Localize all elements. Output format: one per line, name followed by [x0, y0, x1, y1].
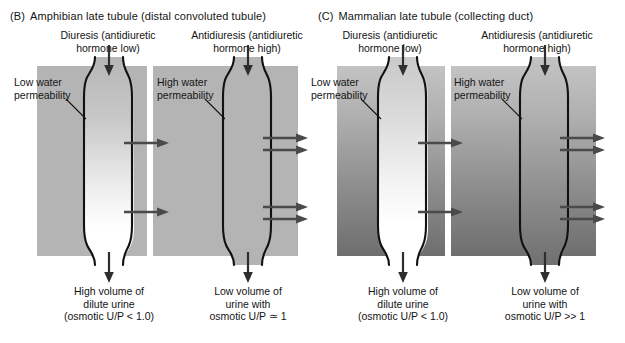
panel-b-col2-outflow-arrow	[241, 252, 255, 284]
panel-b-col1-outflow-arrow	[102, 252, 116, 284]
panel-c-col1-permeability-line2: permeability	[311, 89, 368, 102]
panel-b-col2-caption: Low volume of urine with osmotic U/P ≃ 1	[168, 285, 328, 323]
panel-c-col1-caption-line3: (osmotic U/P < 1.0)	[323, 310, 483, 323]
panel-b-col2-caption-line1: Low volume of	[168, 285, 328, 298]
panel-c-col1-permeability-line1: Low water	[311, 76, 368, 89]
panel-c-col1-efflux-arrow-2	[418, 207, 464, 217]
panel-b-col2-caption-line3: osmotic U/P ≃ 1	[168, 310, 328, 323]
panel-c-col2-permeability-line1: High water	[454, 76, 511, 89]
panel-b-col2-heading-line1: Antidiuresis (antidiuretic	[172, 29, 322, 42]
panel-c-col1-heading: Diuresis (antidiuretic hormone low)	[315, 29, 465, 54]
panel-b-col2-permeability-label: High water permeability	[157, 76, 214, 101]
panel-b-col2-efflux-arrow-1	[263, 133, 309, 143]
panel-b-title: (B)Amphibian late tubule (distal convolu…	[10, 10, 266, 23]
panel-c-col2-heading: Antidiuresis (antidiuretic hormone high)	[462, 29, 612, 54]
panel-c-col1-heading-line1: Diuresis (antidiuretic	[315, 29, 465, 42]
panel-b-col1-tubule	[77, 57, 141, 265]
panel-c-col2-permeability-label: High water permeability	[454, 76, 511, 101]
panel-b-col2-inflow-arrow	[241, 45, 255, 77]
panel-c-col2-heading-line1: Antidiuresis (antidiuretic	[462, 29, 612, 42]
panel-b-col1-efflux-arrow-2	[124, 207, 170, 217]
panel-c-col2-caption-line2: urine with	[465, 298, 625, 311]
panel-b-tag: (B)	[10, 10, 25, 22]
panel-b-title-text: Amphibian late tubule (distal convoluted…	[30, 10, 266, 22]
panel-c-col1-inflow-arrow	[396, 45, 410, 77]
panel-c-col2-efflux-arrow-1	[560, 133, 606, 143]
panel-b-col2-permeability-line2: permeability	[157, 89, 214, 102]
panel-b-col1-permeability-label: Low water permeability	[14, 76, 71, 101]
panel-c-col2-caption-line3: osmotic U/P >> 1	[465, 310, 625, 323]
panel-c-col2-permeability-line2: permeability	[454, 89, 511, 102]
panel-b-col2-efflux-arrow-2	[263, 145, 309, 155]
panel-c-col2-inflow-arrow	[538, 45, 552, 77]
panel-b-col1-inflow-arrow	[102, 45, 116, 77]
panel-c-col2-efflux-arrow-2	[560, 145, 606, 155]
panel-c-col1-caption-line2: dilute urine	[323, 298, 483, 311]
panel-c-col1-caption-line1: High volume of	[323, 285, 483, 298]
figure-canvas: (B)Amphibian late tubule (distal convolu…	[0, 0, 625, 343]
panel-b-col2-permeability-line1: High water	[157, 76, 214, 89]
panel-b-col1-caption: High volume of dilute urine (osmotic U/P…	[29, 285, 189, 323]
panel-c-col2-caption: Low volume of urine with osmotic U/P >> …	[465, 285, 625, 323]
panel-c-tag: (C)	[318, 10, 334, 22]
panel-b-col1-caption-line2: dilute urine	[29, 298, 189, 311]
panel-c-title: (C)Mammalian late tubule (collecting duc…	[318, 10, 533, 23]
panel-c-col1-efflux-arrow-1	[418, 138, 464, 148]
panel-c-col2-heading-line2: hormone high)	[462, 42, 612, 55]
panel-b-col1-permeability-line1: Low water	[14, 76, 71, 89]
panel-c-col1-tubule	[371, 57, 435, 265]
panel-b-col2-efflux-arrow-4	[263, 214, 309, 224]
panel-b-col1-permeability-line2: permeability	[14, 89, 71, 102]
panel-b-col1-caption-line1: High volume of	[29, 285, 189, 298]
panel-c-col1-heading-line2: hormone low)	[315, 42, 465, 55]
panel-c-col2-caption-line1: Low volume of	[465, 285, 625, 298]
panel-b-col1-heading-line1: Diuresis (antidiuretic	[33, 29, 183, 42]
panel-c-col1-permeability-label: Low water permeability	[311, 76, 368, 101]
panel-b-col1-efflux-arrow-1	[124, 138, 170, 148]
panel-c-col1-outflow-arrow	[396, 252, 410, 284]
panel-c-col2-efflux-arrow-4	[560, 214, 606, 224]
panel-c-col2-tubule	[513, 57, 577, 265]
panel-b-col1-caption-line3: (osmotic U/P < 1.0)	[29, 310, 189, 323]
panel-c-col2-outflow-arrow	[538, 252, 552, 284]
panel-c-col2-efflux-arrow-3	[560, 202, 606, 212]
panel-c-col1-caption: High volume of dilute urine (osmotic U/P…	[323, 285, 483, 323]
panel-c-title-text: Mammalian late tubule (collecting duct)	[339, 10, 534, 22]
panel-b-col2-caption-line2: urine with	[168, 298, 328, 311]
panel-b-col2-efflux-arrow-3	[263, 202, 309, 212]
panel-b-col2-tubule	[216, 57, 280, 265]
